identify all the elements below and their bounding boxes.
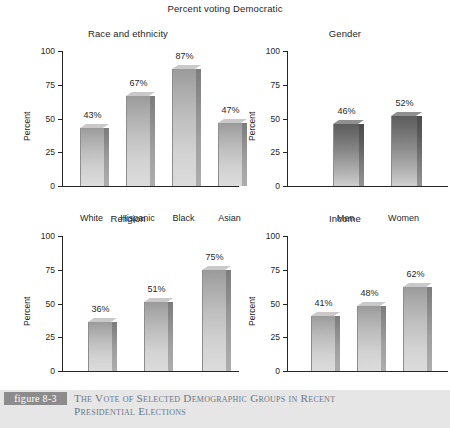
y-axis-line-religion [62,236,63,372]
chart-title-gender: Gender [243,28,447,39]
bar-race-and-ethnicity-0 [80,128,103,186]
y-tick-income-0 [283,371,287,372]
y-tick-gender-25 [283,152,287,153]
data-label-race-and-ethnicity-2: 87% [166,52,203,61]
y-tick-label-gender-50: 50 [254,115,280,124]
y-tick-label-gender-100: 100 [254,47,280,56]
figure-main-title: Percent voting Democratic [0,3,450,14]
y-tick-religion-0 [58,371,62,372]
bar-front-face [218,123,242,186]
y-tick-race-and-ethnicity-100 [58,51,62,52]
data-label-religion-0: 36% [82,305,119,314]
y-tick-religion-100 [58,236,62,237]
chart-title-income: Income [243,213,447,224]
bar-front-face [357,306,381,371]
y-tick-religion-25 [58,337,62,338]
y-tick-income-75 [283,270,287,271]
x-axis-line-income [287,371,448,372]
y-tick-race-and-ethnicity-75 [58,85,62,86]
y-tick-label-gender-25: 25 [254,148,280,157]
y-tick-gender-75 [283,85,287,86]
y-tick-label-religion-50: 50 [29,300,55,309]
bar-front-face [311,316,335,371]
caption-line-2: Presidential Elections [74,405,434,418]
bar-gender-1 [391,116,416,186]
bar-front-face [172,69,196,186]
y-tick-label-race-and-ethnicity-50: 50 [29,115,55,124]
bar-religion-2 [202,270,225,371]
bar-front-face [88,322,112,371]
y-axis-label-income: Percent [247,296,257,325]
bar-income-1 [357,306,380,371]
caption-line-1: The Vote of Selected Demographic Groups … [74,392,434,405]
plot-area-race-and-ethnicity: 0255075100Percent43%67%87%47% [62,51,238,186]
chart-panel-income: Income0255075100Percent41%48%62%Topthird… [243,213,450,411]
y-tick-label-religion-75: 75 [29,266,55,275]
plot-area-religion: 0255075100Percent36%51%75% [62,236,238,371]
data-label-religion-2: 75% [196,253,233,262]
chart-title-religion: Religion [18,213,238,224]
chart-panel-gender: Gender0255075100Percent46%52%MenWomen [243,28,450,226]
y-axis-label-race-and-ethnicity: Percent [22,111,32,140]
chart-panel-race-and-ethnicity: Race and ethnicity0255075100Percent43%67… [18,28,248,226]
y-tick-label-gender-75: 75 [254,81,280,90]
bar-front-face [202,270,226,371]
bar-gender-0 [333,124,358,186]
data-label-gender-0: 46% [327,107,366,116]
bar-religion-1 [144,302,167,371]
data-label-income-0: 41% [305,299,342,308]
y-tick-label-religion-25: 25 [29,333,55,342]
y-tick-label-income-100: 100 [254,232,280,241]
y-tick-race-and-ethnicity-25 [58,152,62,153]
figure-8-3: Percent voting Democratic Race and ethni… [0,0,450,428]
bar-front-face [333,124,359,186]
y-tick-label-race-and-ethnicity-0: 0 [29,182,55,191]
figure-number-tag: figure 8-3 [4,392,67,405]
y-tick-label-religion-100: 100 [29,232,55,241]
y-tick-label-race-and-ethnicity-100: 100 [29,47,55,56]
bar-front-face [126,96,150,186]
y-tick-religion-75 [58,270,62,271]
y-axis-line-race-and-ethnicity [62,51,63,187]
data-label-race-and-ethnicity-0: 43% [74,111,111,120]
y-tick-gender-100 [283,51,287,52]
bar-income-2 [403,287,426,371]
y-tick-race-and-ethnicity-0 [58,186,62,187]
bar-race-and-ethnicity-1 [126,96,149,186]
x-axis-line-race-and-ethnicity [62,186,239,187]
bar-religion-0 [88,322,111,371]
y-tick-income-25 [283,337,287,338]
figure-caption: The Vote of Selected Demographic Groups … [74,392,434,417]
plot-area-gender: 0255075100Percent46%52% [287,51,447,186]
bar-front-face [144,302,168,371]
y-tick-label-race-and-ethnicity-75: 75 [29,81,55,90]
bar-front-face [403,287,427,371]
data-label-race-and-ethnicity-1: 67% [120,79,157,88]
y-axis-line-gender [287,51,288,187]
y-tick-label-income-0: 0 [254,367,280,376]
bar-race-and-ethnicity-3 [218,123,241,186]
y-axis-line-income [287,236,288,372]
y-axis-label-religion: Percent [22,296,32,325]
y-axis-label-gender: Percent [247,111,257,140]
y-tick-race-and-ethnicity-50 [58,119,62,120]
chart-panel-religion: Religion0255075100Percent36%51%75%Protes… [18,213,248,411]
bar-front-face [80,128,104,186]
bar-race-and-ethnicity-2 [172,69,195,186]
y-tick-label-income-25: 25 [254,333,280,342]
data-label-income-2: 62% [397,270,434,279]
data-label-income-1: 48% [351,289,388,298]
y-tick-gender-0 [283,186,287,187]
y-tick-gender-50 [283,119,287,120]
y-tick-label-income-75: 75 [254,266,280,275]
y-tick-label-religion-0: 0 [29,367,55,376]
y-tick-income-100 [283,236,287,237]
y-tick-religion-50 [58,304,62,305]
y-tick-label-income-50: 50 [254,300,280,309]
y-tick-label-gender-0: 0 [254,182,280,191]
data-label-gender-1: 52% [385,99,424,108]
x-axis-line-gender [287,186,448,187]
y-tick-label-race-and-ethnicity-25: 25 [29,148,55,157]
chart-title-race-and-ethnicity: Race and ethnicity [18,28,238,39]
bar-front-face [391,116,417,186]
